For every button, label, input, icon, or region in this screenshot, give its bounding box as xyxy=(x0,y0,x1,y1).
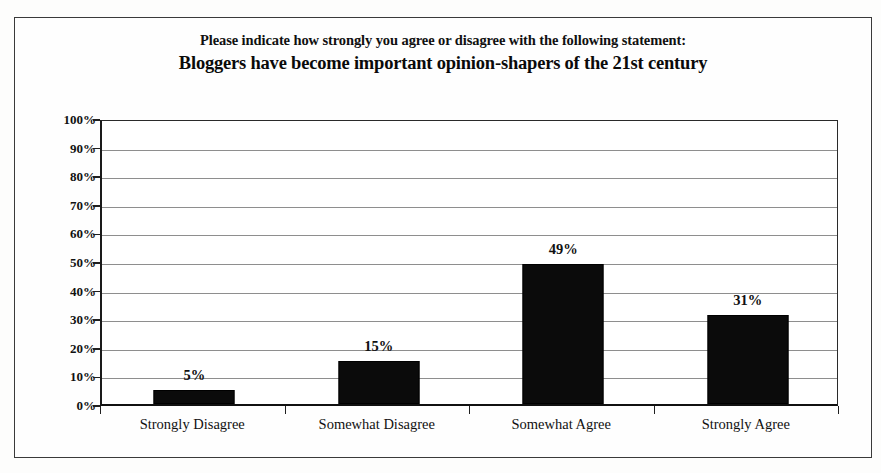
x-axis-tick-mark xyxy=(654,406,655,414)
y-axis-tick-label: 100% xyxy=(34,112,96,128)
y-axis-tick-mark xyxy=(93,234,100,236)
bar-group: 15% xyxy=(287,121,472,404)
y-axis-tick-mark xyxy=(93,176,100,178)
x-axis-tick-label: Somewhat Disagree xyxy=(285,416,470,433)
bar-value-label: 49% xyxy=(549,241,578,258)
y-axis-tick-label: 40% xyxy=(34,284,96,300)
x-axis-tick-label: Strongly Agree xyxy=(654,416,839,433)
y-axis-tick-mark xyxy=(93,377,100,379)
y-axis-tick-mark xyxy=(93,262,100,264)
y-axis-tick-label: 10% xyxy=(34,369,96,385)
x-axis-tick-mark xyxy=(100,406,101,414)
y-axis-tick-label: 30% xyxy=(34,312,96,328)
bar[interactable] xyxy=(523,264,604,404)
y-axis-tick-label: 20% xyxy=(34,341,96,357)
chart-title-line-1: Please indicate how strongly you agree o… xyxy=(15,30,871,50)
bar[interactable] xyxy=(154,390,235,404)
chart-title-line-2: Bloggers have become important opinion-s… xyxy=(15,50,871,76)
y-axis-tick-mark xyxy=(93,319,100,321)
bar-value-label: 5% xyxy=(183,367,205,384)
x-axis-tick-mark xyxy=(285,406,286,414)
y-axis-tick-label: 0% xyxy=(34,398,96,414)
x-axis-tick-mark xyxy=(838,406,839,414)
x-axis-tick-mark xyxy=(469,406,470,414)
plot-area: 5%15%49%31% xyxy=(100,120,838,406)
chart-page: Please indicate how strongly you agree o… xyxy=(0,0,881,473)
bar[interactable] xyxy=(707,315,788,404)
bar[interactable] xyxy=(338,361,419,404)
x-axis-tick-label: Somewhat Agree xyxy=(469,416,654,433)
bar-value-label: 31% xyxy=(733,292,762,309)
bar-value-label: 15% xyxy=(364,338,393,355)
y-axis-tick-label: 80% xyxy=(34,169,96,185)
y-axis-tick-mark xyxy=(93,348,100,350)
y-axis-tick-label: 50% xyxy=(34,255,96,271)
bar-group: 31% xyxy=(656,121,841,404)
bar-group: 49% xyxy=(471,121,656,404)
y-axis-tick-mark xyxy=(93,205,100,207)
y-axis-tick-label: 70% xyxy=(34,198,96,214)
y-axis-tick-label: 90% xyxy=(34,141,96,157)
y-axis-tick-mark xyxy=(93,291,100,293)
bar-group: 5% xyxy=(102,121,287,404)
y-axis-tick-labels: 0%10%20%30%40%50%60%70%80%90%100% xyxy=(30,120,96,406)
chart-title-block: Please indicate how strongly you agree o… xyxy=(15,30,871,76)
y-axis-tick-mark xyxy=(93,148,100,150)
y-axis-tick-mark xyxy=(93,405,100,407)
y-axis-tick-mark xyxy=(93,119,100,121)
y-axis-tick-label: 60% xyxy=(34,226,96,242)
x-axis-tick-labels: Strongly DisagreeSomewhat DisagreeSomewh… xyxy=(100,416,838,442)
x-axis-tick-label: Strongly Disagree xyxy=(100,416,285,433)
